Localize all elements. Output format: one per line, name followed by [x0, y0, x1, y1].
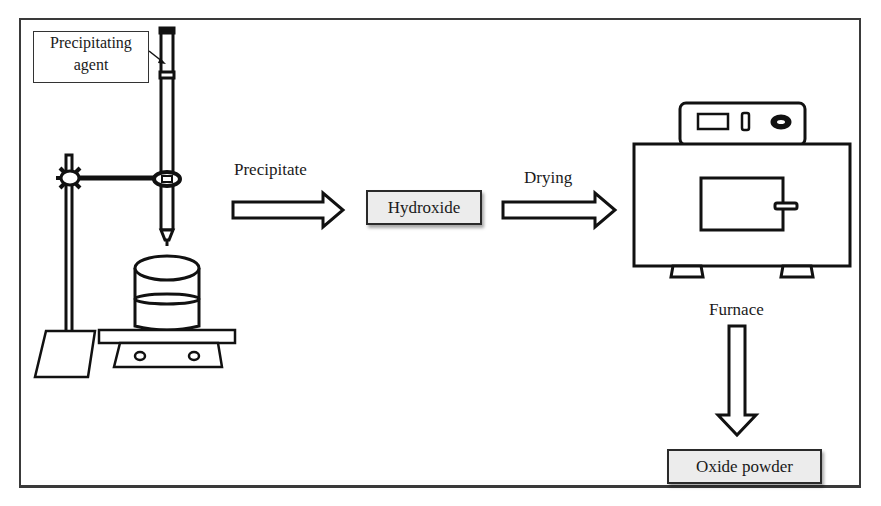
- beaker: [135, 256, 199, 330]
- precipitate-label: Precipitate: [234, 161, 307, 178]
- arrow-precipitate: [233, 193, 343, 227]
- oxide-powder-box: Oxide powder: [667, 449, 822, 484]
- agent-label-line2: agent: [34, 53, 148, 77]
- magnetic-stirrer: [99, 330, 235, 367]
- drying-label: Drying: [524, 169, 572, 186]
- furnace-label: Furnace: [709, 301, 764, 318]
- burette: [154, 28, 180, 246]
- precipitating-agent-label: Precipitating agent: [33, 31, 149, 83]
- retort-stand: [35, 155, 95, 377]
- drying-oven: [634, 103, 850, 277]
- arrow-furnace: [718, 326, 756, 435]
- agent-label-line1: Precipitating: [34, 33, 148, 53]
- clamp-boss: [56, 168, 155, 188]
- hydroxide-box: Hydroxide: [366, 190, 482, 225]
- arrow-drying: [503, 193, 615, 227]
